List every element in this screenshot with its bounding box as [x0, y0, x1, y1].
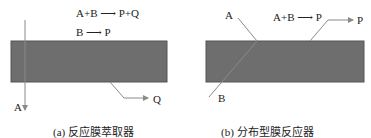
membrane-b [206, 41, 364, 82]
reaction-label-b1: A+B ⟶ P [273, 11, 322, 23]
reaction-label-a1: A+B ⟶ P+Q [76, 7, 139, 19]
arrow-p-out [310, 20, 353, 41]
arrow-q-out [110, 82, 148, 98]
species-label-q: Q [153, 93, 161, 105]
species-label-p: P [357, 14, 363, 26]
species-label-b: B [218, 92, 225, 104]
species-label-a: A [225, 9, 233, 21]
feed-line-a [238, 18, 257, 41]
caption-a: (a) 反应膜萃取器 [53, 123, 134, 138]
membrane-a [11, 41, 167, 82]
panel-distributed-membrane-reactor: A A+B ⟶ P P B (b) 分布型膜反应器 [185, 0, 371, 138]
caption-b: (b) 分布型膜反应器 [221, 123, 314, 138]
diagram-a-graphics [0, 0, 185, 138]
species-label-a: A [14, 101, 22, 113]
reaction-label-a2: B ⟶ P [76, 26, 111, 38]
panel-reactive-membrane-extractor: A+B ⟶ P+Q B ⟶ P A Q (a) 反应膜萃取器 [0, 0, 185, 138]
